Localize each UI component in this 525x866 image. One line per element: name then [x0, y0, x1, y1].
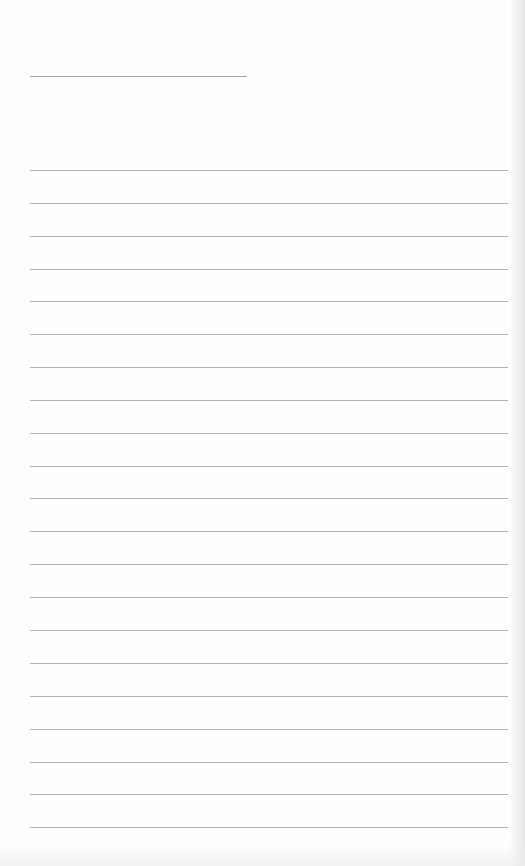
ruled-line: [30, 794, 508, 795]
ruled-line: [30, 696, 508, 697]
ruled-line: [30, 400, 508, 401]
ruled-line: [30, 762, 508, 763]
page-bottom-shadow: [0, 844, 525, 866]
ruled-line: [30, 498, 508, 499]
ruled-line: [30, 827, 508, 828]
ruled-line: [30, 367, 508, 368]
ruled-line: [30, 269, 508, 270]
ruled-line: [30, 301, 508, 302]
ruled-line: [30, 236, 508, 237]
ruled-line: [30, 630, 508, 631]
ruled-line: [30, 170, 508, 171]
ruled-line: [30, 433, 508, 434]
ruled-line: [30, 597, 508, 598]
ruled-line: [30, 203, 508, 204]
header-name-line: [30, 76, 247, 77]
page-edge-shadow: [509, 0, 525, 866]
ruled-line: [30, 663, 508, 664]
ruled-line: [30, 564, 508, 565]
ruled-line: [30, 531, 508, 532]
ruled-line: [30, 466, 508, 467]
lined-paper-page: [0, 0, 525, 866]
ruled-line: [30, 729, 508, 730]
ruled-line: [30, 334, 508, 335]
